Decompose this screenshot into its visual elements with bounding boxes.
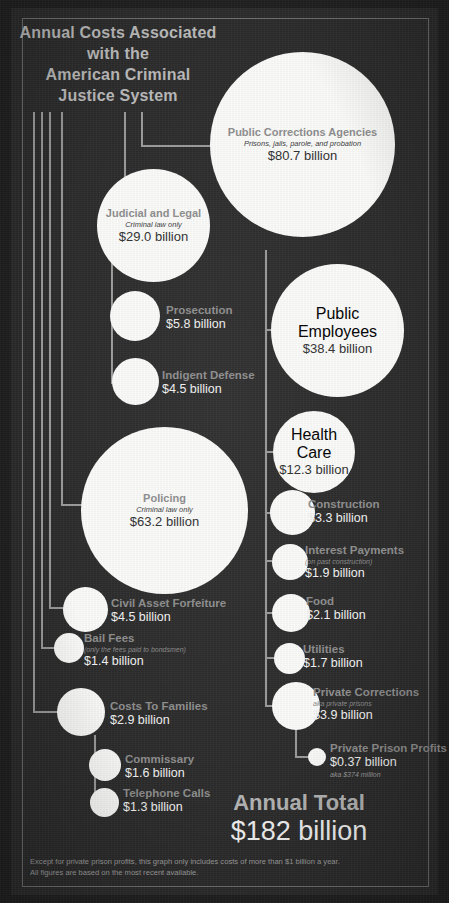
label-amount-private-corrections: $3.9 billion [313,708,419,723]
label-construction: Construction $3.3 billion [308,498,380,526]
label-civil-asset-forfeiture: Civil Asset Forfeiture $4.5 billion [111,597,226,625]
page-title: Annual Costs Associated with the America… [18,22,218,106]
bubble-amount-judicial: $29.0 billion [101,229,206,245]
bubble-subtitle-public-corrections: Prisons, jails, parole, and probation [214,139,391,148]
label-name-prosecution: Prosecution [166,304,232,317]
bubble-utilities[interactable] [274,643,305,674]
title-line-2: with the [18,43,218,64]
label-bail-fees: Bail Fees (only the fees paid to bondsme… [84,632,186,669]
bubble-interest-payments[interactable] [272,544,308,580]
label-amount-public-employees: $38.4 billion [275,341,400,357]
wire-bail-fees [42,112,68,648]
wire-costs-families [34,112,62,712]
bubble-title-judicial: Judicial and Legal [101,207,206,220]
bubble-subtitle-judicial: Criminal law only [101,220,206,229]
title-line-4: Justice System [18,85,218,106]
label-commissary: Commissary $1.6 billion [125,753,194,781]
label-amount-prosecution: $5.8 billion [166,317,232,332]
label-name-private-corrections: Private Corrections [313,686,419,699]
label-amount-private-prison-profits: $0.37 billion [330,755,447,770]
annual-total-value: $182 billion [179,815,419,847]
label-utilities: Utilities $1.7 billion [303,643,363,671]
wire-policing [62,112,92,505]
label-interest-payments: Interest Payments (on past construction)… [305,544,404,581]
bubble-public-employees[interactable]: Public Employees $38.4 billion [271,264,404,397]
label-name-health-care: Health Care [277,426,351,462]
label-indigent-defense: Indigent Defense $4.5 billion [162,369,255,397]
footnote-line-1: Except for private prison profits, this … [30,856,425,867]
footnote: Except for private prison profits, this … [30,856,425,878]
bubble-food[interactable] [272,594,310,632]
label-private-corrections: Private Corrections aka private prisons … [313,686,419,723]
label-subtitle-bail-fees: (only the fees paid to bondsmen) [84,645,186,654]
label-amount-interest-payments: $1.9 billion [305,566,404,581]
label-amount-indigent-defense: $4.5 billion [162,382,255,397]
bubble-prosecution[interactable] [110,291,160,341]
label-amount-utilities: $1.7 billion [303,656,363,671]
label-amount-construction: $3.3 billion [308,511,380,526]
label-note-private-prison-profits: aka $374 million [330,770,447,779]
bubble-amount-policing: $63.2 billion [85,514,244,530]
label-amount-commissary: $1.6 billion [125,766,194,781]
bubble-civil-asset-forfeiture[interactable] [63,587,108,632]
annual-total: Annual Total $182 billion [179,790,419,847]
bubble-title-public-corrections: Public Corrections Agencies [214,126,391,139]
label-name-bail-fees: Bail Fees [84,632,186,645]
label-name-indigent-defense: Indigent Defense [162,369,255,382]
infographic-poster: Annual Costs Associated with the America… [0,0,449,903]
label-costs-to-families: Costs To Families $2.9 billion [110,700,208,728]
label-prosecution: Prosecution $5.8 billion [166,304,232,332]
bubble-costs-to-families[interactable] [57,688,105,736]
wire-civil-asset [50,112,78,608]
label-food: Food $2.1 billion [306,595,366,623]
label-name-commissary: Commissary [125,753,194,766]
bubble-bail-fees[interactable] [54,633,84,663]
label-amount-bail-fees: $1.4 billion [84,654,186,669]
label-private-prison-profits: Private Prison Profits $0.37 billion aka… [330,742,447,779]
bubble-amount-public-corrections: $80.7 billion [214,148,391,164]
title-line-1: Annual Costs Associated [18,22,218,43]
label-subtitle-interest-payments: (on past construction) [305,557,404,566]
label-subtitle-private-corrections: aka private prisons [313,699,419,708]
bubble-policing[interactable]: Policing Criminal law only $63.2 billion [81,427,248,594]
label-name-public-employees: Public Employees [275,305,400,341]
annual-total-label: Annual Total [179,790,419,815]
bubble-telephone-calls[interactable] [90,788,119,817]
label-amount-food: $2.1 billion [306,608,366,623]
bubble-indigent-defense[interactable] [112,358,159,405]
label-name-civil-asset-forfeiture: Civil Asset Forfeiture [111,597,226,610]
bubble-subtitle-policing: Criminal law only [85,505,244,514]
label-name-private-prison-profits: Private Prison Profits [330,742,447,755]
bubble-title-policing: Policing [85,492,244,505]
title-line-3: American Criminal [18,64,218,85]
label-name-food: Food [306,595,366,608]
label-name-construction: Construction [308,498,380,511]
bubble-private-prison-profits[interactable] [308,748,326,766]
bubble-health-care[interactable]: Health Care $12.3 billion [273,411,355,493]
bubble-judicial-and-legal[interactable]: Judicial and Legal Criminal law only $29… [97,169,210,282]
bubble-commissary[interactable] [89,749,121,781]
label-name-costs-to-families: Costs To Families [110,700,208,713]
label-name-interest-payments: Interest Payments [305,544,404,557]
label-amount-costs-to-families: $2.9 billion [110,713,208,728]
label-name-utilities: Utilities [303,643,363,656]
footnote-line-2: All figures are based on the most recent… [30,867,425,878]
bubble-public-corrections-agencies[interactable]: Public Corrections Agencies Prisons, jai… [210,52,395,237]
label-amount-civil-asset-forfeiture: $4.5 billion [111,610,226,625]
label-amount-health-care: $12.3 billion [277,462,351,478]
